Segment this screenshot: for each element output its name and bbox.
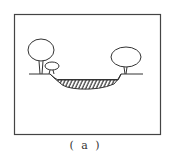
left-small-shrub-trunk <box>49 70 54 74</box>
hatched-depression <box>50 74 121 89</box>
left-large-tree-trunk <box>39 61 43 74</box>
right-tree-icon <box>111 47 141 67</box>
figure-caption: ( a ) <box>0 139 171 152</box>
left-large-tree-icon <box>28 39 54 61</box>
left-small-shrub-icon <box>45 62 59 70</box>
right-tree-trunk <box>124 67 127 74</box>
